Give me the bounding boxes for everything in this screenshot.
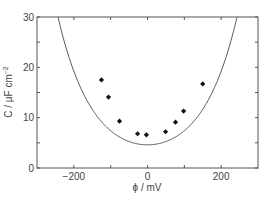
tick-labels: −20002000102030 xyxy=(23,12,230,183)
x-tick-label: 0 xyxy=(145,171,151,182)
y-tick-label: 0 xyxy=(28,163,34,174)
x-tick-label: 200 xyxy=(213,171,230,182)
y-axis-label: C / μF cm−2 xyxy=(2,66,14,118)
data-point-diamond xyxy=(163,129,168,134)
y-tick-label: 10 xyxy=(23,112,35,123)
data-point-diamond xyxy=(144,132,149,137)
y-tick-label: 30 xyxy=(23,12,35,23)
data-points xyxy=(99,77,205,137)
theory-curve xyxy=(37,0,258,145)
chart: −20002000102030 ϕ / mV C / μF cm−2 xyxy=(0,0,272,200)
data-point-diamond xyxy=(117,119,122,124)
data-point-diamond xyxy=(106,94,111,99)
data-point-diamond xyxy=(181,109,186,114)
y-tick-label: 20 xyxy=(23,62,35,73)
data-point-diamond xyxy=(135,131,140,136)
x-tick-label: −200 xyxy=(63,171,86,182)
data-point-diamond xyxy=(173,120,178,125)
svg-text:C / μF cm−2: C / μF cm−2 xyxy=(2,66,14,118)
data-point-diamond xyxy=(99,77,104,82)
data-point-diamond xyxy=(200,81,205,86)
x-axis-label: ϕ / mV xyxy=(133,182,162,193)
